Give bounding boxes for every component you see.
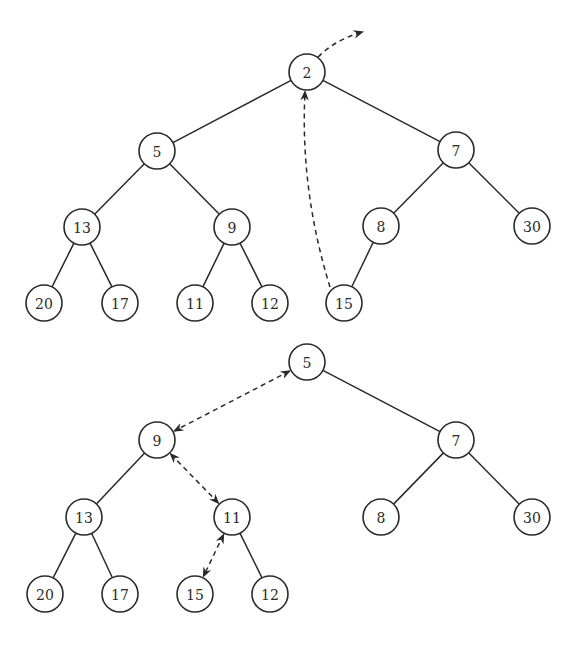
heap-node: 8: [363, 208, 399, 244]
heap-node: 9: [214, 209, 250, 245]
tree-edge: [240, 533, 262, 578]
tree-edge: [92, 533, 113, 577]
node-label: 8: [377, 219, 386, 235]
node-label: 7: [452, 433, 461, 449]
heap-node: 13: [66, 499, 102, 535]
heap-node: 20: [27, 576, 63, 612]
tree-edge: [95, 164, 145, 214]
node-label: 20: [35, 296, 53, 312]
heap-diagram: 2571398302017111215597131183020171512: [0, 0, 585, 648]
tree-edge: [173, 80, 291, 142]
heap-node: 9: [139, 422, 175, 458]
tree-edge: [394, 163, 444, 213]
heap-node: 11: [177, 285, 213, 321]
heap-node: 8: [363, 499, 399, 535]
node-label: 17: [111, 587, 129, 603]
node-label: 8: [377, 510, 386, 526]
tree-edge: [469, 453, 520, 504]
heap-node: 17: [102, 576, 138, 612]
node-label: 11: [186, 296, 204, 312]
node-label: 5: [153, 144, 162, 160]
node-label: 15: [335, 296, 353, 312]
swap-arrow-icon: [204, 535, 224, 576]
heap-node: 13: [64, 209, 100, 245]
tree-edge: [394, 453, 444, 504]
move-last-to-root-arrow-icon: [304, 92, 330, 287]
node-label: 13: [73, 220, 91, 236]
node-label: 12: [261, 587, 279, 603]
tree-edge: [323, 370, 440, 431]
node-label: 11: [223, 510, 241, 526]
swap-arrow-icon: [175, 371, 290, 431]
tree-edge: [323, 80, 440, 141]
heap-node: 7: [438, 132, 474, 168]
node-label: 13: [75, 510, 93, 526]
heap-node: 2: [289, 54, 325, 90]
heap-node: 17: [102, 285, 138, 321]
heap-node: 5: [289, 344, 325, 380]
tree-edge: [469, 163, 520, 214]
tree-edge: [240, 243, 262, 287]
heap-node: 30: [514, 499, 550, 535]
tree-edge: [53, 533, 76, 578]
node-label: 2: [303, 65, 312, 81]
tree-edge: [52, 243, 74, 287]
node-label: 7: [452, 143, 461, 159]
tree-edge: [203, 243, 224, 287]
heap-node: 12: [252, 576, 288, 612]
heap-node: 30: [514, 208, 550, 244]
node-label: 20: [36, 587, 54, 603]
node-label: 5: [303, 355, 312, 371]
heap-node: 15: [177, 576, 213, 612]
tree-edge: [96, 453, 144, 504]
node-label: 17: [111, 296, 129, 312]
node-label: 30: [523, 219, 541, 235]
heap-node: 5: [139, 133, 175, 169]
tree-nodes: 2571398302017111215597131183020171512: [26, 54, 550, 612]
node-label: 9: [228, 220, 237, 236]
heap-node: 20: [26, 285, 62, 321]
node-label: 30: [523, 510, 541, 526]
tree-edge: [170, 164, 220, 214]
node-label: 12: [261, 296, 279, 312]
heap-node: 11: [214, 499, 250, 535]
swap-arrow-icon: [171, 454, 218, 502]
tree-edge: [352, 242, 373, 287]
heap-node: 12: [252, 285, 288, 321]
node-label: 15: [186, 587, 204, 603]
heap-node: 15: [326, 285, 362, 321]
tree-edge: [90, 243, 112, 287]
node-label: 9: [153, 433, 162, 449]
root-removal-arrow-icon: [318, 32, 362, 57]
heap-node: 7: [438, 422, 474, 458]
